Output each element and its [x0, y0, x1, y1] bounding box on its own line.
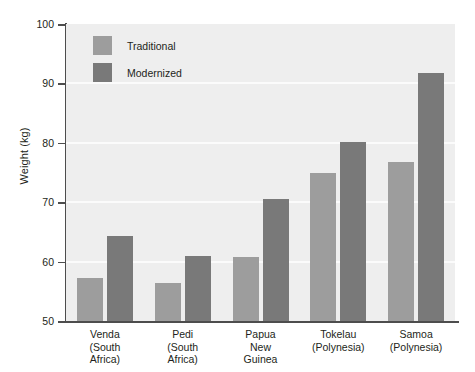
bar-traditional: [77, 278, 103, 321]
x-category-line: Africa): [60, 353, 150, 366]
x-category-line: Papua: [216, 328, 306, 341]
x-category-line: (South: [138, 341, 228, 354]
bar-chart-figure: Weight (kg) 5060708090100 Traditional Mo…: [0, 0, 475, 372]
bar-traditional: [233, 257, 259, 321]
y-axis-title: Weight (kg): [18, 106, 30, 206]
bar-modernized: [107, 236, 133, 321]
y-tick-label: 60: [18, 256, 54, 268]
y-tick-mark: [58, 202, 66, 204]
y-tick-mark: [58, 143, 66, 145]
y-tick-mark: [58, 262, 66, 264]
y-tick-mark: [58, 24, 66, 26]
y-tick-label: 80: [18, 137, 54, 149]
y-tick-label: 100: [18, 18, 54, 30]
x-category-line: Guinea: [216, 353, 306, 366]
legend-item-traditional: Traditional: [93, 32, 182, 59]
y-tick-label: 50: [18, 315, 54, 327]
plot-area: Traditional Modernized: [66, 24, 455, 321]
x-category-line: New: [216, 341, 306, 354]
bar-modernized: [340, 142, 366, 321]
x-axis-line: [62, 321, 459, 323]
bar-traditional: [155, 283, 181, 321]
x-category-line: Africa): [138, 353, 228, 366]
legend-label-modernized: Modernized: [127, 67, 182, 79]
x-category-line: Venda: [60, 328, 150, 341]
x-category-label: Tokelau(Polynesia): [293, 328, 383, 353]
bar-modernized: [185, 256, 211, 321]
bar-traditional: [388, 162, 414, 321]
y-tick-label: 90: [18, 77, 54, 89]
legend-swatch-traditional: [93, 36, 112, 55]
bar-modernized: [418, 73, 444, 321]
legend-swatch-modernized: [93, 63, 112, 82]
chart-legend: Traditional Modernized: [93, 32, 182, 86]
bar-traditional: [310, 173, 336, 322]
x-category-line: Pedi: [138, 328, 228, 341]
y-tick-mark: [58, 321, 66, 323]
legend-item-modernized: Modernized: [93, 59, 182, 86]
legend-label-traditional: Traditional: [127, 40, 176, 52]
bar-modernized: [263, 199, 289, 321]
x-category-line: (Polynesia): [293, 341, 383, 354]
x-category-line: Samoa: [371, 328, 461, 341]
x-category-label: PapuaNewGuinea: [216, 328, 306, 366]
gridline: [66, 142, 455, 144]
y-tick-label: 70: [18, 196, 54, 208]
x-category-label: Venda(SouthAfrica): [60, 328, 150, 366]
x-category-label: Samoa(Polynesia): [371, 328, 461, 353]
x-category-line: Tokelau: [293, 328, 383, 341]
x-category-line: (South: [60, 341, 150, 354]
x-category-label: Pedi(SouthAfrica): [138, 328, 228, 366]
y-tick-mark: [58, 83, 66, 85]
x-category-line: (Polynesia): [371, 341, 461, 354]
